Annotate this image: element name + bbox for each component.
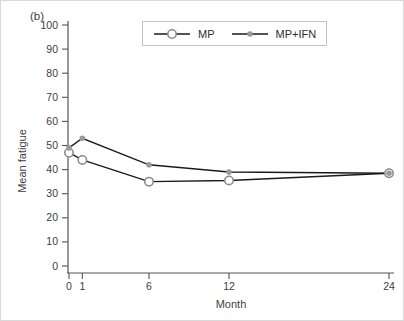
svg-text:90: 90	[46, 43, 58, 55]
x-axis-label: Month	[216, 298, 247, 310]
figure-panel-b: (b) MP MP+IFN 01020304050607080901000161…	[0, 0, 404, 321]
svg-text:60: 60	[46, 115, 58, 127]
svg-text:50: 50	[46, 139, 58, 151]
chart-svg: 01020304050607080901000161224	[1, 1, 404, 321]
svg-text:80: 80	[46, 67, 58, 79]
svg-text:1: 1	[79, 280, 85, 292]
svg-text:20: 20	[46, 211, 58, 223]
svg-text:0: 0	[52, 260, 58, 272]
svg-text:12: 12	[223, 280, 235, 292]
svg-text:30: 30	[46, 187, 58, 199]
svg-text:6: 6	[146, 280, 152, 292]
svg-text:100: 100	[40, 19, 58, 31]
svg-text:40: 40	[46, 163, 58, 175]
svg-text:0: 0	[66, 280, 72, 292]
svg-text:70: 70	[46, 91, 58, 103]
y-axis-label: Mean fatigue	[16, 129, 28, 193]
svg-text:10: 10	[46, 235, 58, 247]
svg-text:24: 24	[383, 280, 395, 292]
